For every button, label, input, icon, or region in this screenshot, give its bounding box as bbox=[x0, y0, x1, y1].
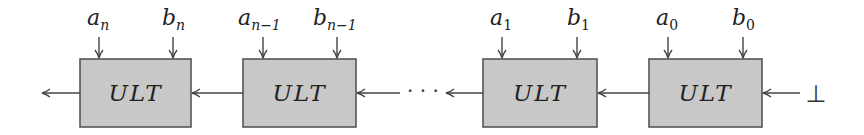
block-label: ULT bbox=[272, 80, 326, 106]
input-label-b-0: b0 bbox=[732, 5, 755, 33]
ult-block-n: ULT an bn bbox=[80, 5, 191, 127]
ult-block-n-minus-1: ULT an−1 bn−1 bbox=[238, 5, 357, 127]
input-label-b-1: b1 bbox=[567, 5, 590, 33]
ellipsis: · · · bbox=[407, 79, 439, 103]
block-label: ULT bbox=[678, 80, 732, 106]
bottom-symbol: ⊥ bbox=[806, 80, 827, 108]
input-label-a-1: a1 bbox=[490, 5, 512, 33]
ult-block-0: ULT a0 b0 bbox=[649, 5, 762, 127]
block-label: ULT bbox=[513, 80, 567, 106]
input-label-b-n-1: bn−1 bbox=[313, 5, 357, 33]
input-label-a-0: a0 bbox=[656, 5, 678, 33]
input-label-b-n: bn bbox=[162, 5, 185, 33]
ult-block-1: ULT a1 b1 bbox=[483, 5, 597, 127]
ult-chain-diagram: ULT an bn ULT an−1 bn−1 ULT a1 b1 ULT a0… bbox=[0, 0, 864, 135]
input-label-a-n: an bbox=[87, 5, 109, 33]
input-label-a-n-1: an−1 bbox=[238, 5, 281, 33]
block-label: ULT bbox=[108, 80, 162, 106]
